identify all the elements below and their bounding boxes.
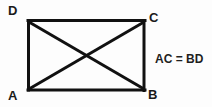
vertex-label-a: A: [8, 89, 17, 102]
vertex-label-d: D: [8, 4, 17, 17]
vertex-label-b: B: [148, 88, 157, 101]
diagonal-equality-annotation: AC = BD: [155, 52, 203, 66]
vertex-label-c: C: [149, 11, 158, 24]
